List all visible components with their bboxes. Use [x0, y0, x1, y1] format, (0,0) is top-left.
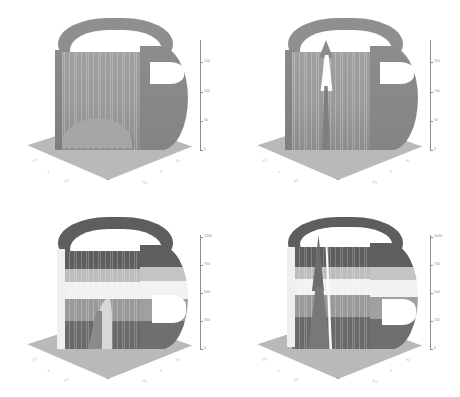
surface-body-2: [230, 0, 460, 198]
surface-panel-2: 150 100 50 0 0.5 0 -0.5 -0.5 0 0.5: [230, 0, 460, 198]
plot-area-1: 150 100 50 0 0.5 0 -0.5 -0.5 0 0.5: [0, 0, 230, 198]
surface-panel-1: 150 100 50 0 0.5 0 -0.5 -0.5 0 0.5: [0, 0, 230, 198]
left-face-4: [287, 247, 295, 347]
z-label-4-750: 750: [434, 263, 440, 266]
z-label-4-500: 500: [434, 291, 440, 294]
z-tick-1-50: [200, 121, 203, 122]
z-tick-3-750: [200, 265, 203, 266]
z-label-4-250: 250: [434, 319, 440, 322]
z-label-2-150: 150: [434, 60, 440, 63]
flank-band-3-1: [140, 245, 188, 267]
z-label-1-0: 0: [204, 148, 206, 151]
z-label-3-500: 500: [204, 291, 210, 294]
z-tick-1-100: [200, 92, 203, 93]
z-tick-4-1000: [430, 237, 433, 238]
flank-notch-1: [150, 62, 184, 84]
z-label-4-1000: 1000: [434, 235, 442, 238]
z-label-3-1000: 1000: [204, 235, 212, 238]
z-tick-1-0: [200, 150, 203, 151]
z-tick-2-150: [430, 62, 433, 63]
z-tick-1-150: [200, 62, 203, 63]
z-tick-3-500: [200, 293, 203, 294]
right-flank-4: [370, 243, 418, 349]
z-tick-2-0: [430, 150, 433, 151]
z-label-3-250: 250: [204, 319, 210, 322]
flank-notch-3: [152, 295, 186, 323]
z-tick-4-750: [430, 265, 433, 266]
z-label-3-750: 750: [204, 263, 210, 266]
flank-band-4-3: [370, 280, 418, 297]
flank-band-4-1: [370, 243, 418, 267]
surface-plot-figure: 150 100 50 0 0.5 0 -0.5 -0.5 0 0.5: [0, 0, 460, 397]
flank-band-3-5: [140, 321, 188, 349]
z-tick-3-1000: [200, 237, 203, 238]
plot-area-3: 1000 750 500 250 0 0.5 0 -0.5 -0.5 0 0.5: [0, 199, 230, 397]
z-tick-4-250: [430, 321, 433, 322]
z-tick-3-250: [200, 321, 203, 322]
surface-panel-4: 1000 750 500 250 0 0.5 0 -0.5 -0.5 0 0.5: [230, 199, 460, 397]
z-tick-3-0: [200, 349, 203, 350]
plot-area-4: 1000 750 500 250 0 0.5 0 -0.5 -0.5 0 0.5: [230, 199, 460, 397]
z-label-1-150: 150: [204, 60, 210, 63]
flank-notch-2: [380, 62, 414, 84]
z-axis-2: [430, 40, 431, 150]
surface-body-3: [0, 199, 230, 397]
plot-area-2: 150 100 50 0 0.5 0 -0.5 -0.5 0 0.5: [230, 0, 460, 198]
z-axis-1: [200, 40, 201, 150]
z-label-2-0: 0: [434, 148, 436, 151]
z-tick-4-0: [430, 349, 433, 350]
z-tick-2-50: [430, 121, 433, 122]
z-label-2-100: 100: [434, 90, 440, 93]
surface-body-1: [0, 0, 230, 198]
z-label-1-100: 100: [204, 90, 210, 93]
flank-band-4-2: [370, 267, 418, 280]
flank-band-3-2: [140, 267, 188, 281]
surface-panel-3: 1000 750 500 250 0 0.5 0 -0.5 -0.5 0 0.5: [0, 199, 230, 397]
flank-notch-4: [382, 299, 416, 325]
surface-body-4: [230, 199, 460, 397]
z-axis-3: [200, 235, 201, 349]
z-label-2-50: 50: [434, 119, 438, 122]
z-label-3-0: 0: [204, 347, 206, 350]
left-face-3: [57, 249, 65, 349]
z-label-4-0: 0: [434, 347, 436, 350]
z-label-1-50: 50: [204, 119, 208, 122]
z-tick-4-500: [430, 293, 433, 294]
z-axis-4: [430, 235, 431, 349]
z-tick-2-100: [430, 92, 433, 93]
